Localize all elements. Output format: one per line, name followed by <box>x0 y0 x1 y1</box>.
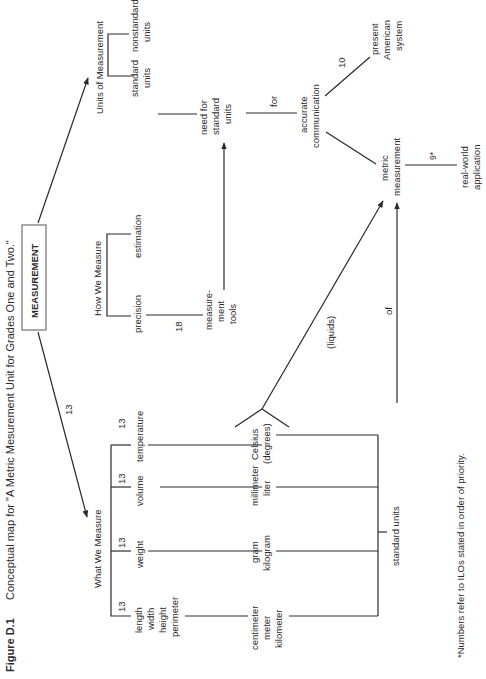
tools-l3: tools <box>227 304 238 324</box>
estimation-label: estimation <box>132 215 143 258</box>
present-l3: system <box>393 21 404 51</box>
application-l2: application <box>471 145 482 190</box>
priority-volume: 13 <box>116 473 127 484</box>
standard-units-l2: units <box>141 68 152 88</box>
need-l2: standard <box>210 98 221 135</box>
tools-l2: ment <box>215 301 226 322</box>
item-height: height <box>157 607 168 633</box>
root-what-link: 13 <box>63 404 74 415</box>
concept-map: Figure D.1 Conceptual map for "A Metric … <box>0 0 486 679</box>
figure-label: Figure D.1 <box>4 618 16 672</box>
item-length: length <box>133 607 144 633</box>
item-weight: weight <box>134 540 145 569</box>
accurate-to-present <box>325 57 370 96</box>
figure-title: Conceptual map for "A Metric Mesurement … <box>4 240 16 600</box>
units-title: Units of Measurement <box>94 21 105 114</box>
for-link: for <box>268 96 279 107</box>
figure-caption: Figure D.1 Conceptual map for "A Metric … <box>4 240 16 672</box>
unit-kilogram: kilogram <box>261 535 272 571</box>
priority-temperature: 13 <box>116 418 127 429</box>
metric-l1: metric <box>379 155 390 181</box>
unit-centimeter: centimeter <box>249 606 260 650</box>
liquids-arrow <box>262 201 383 409</box>
root-label: MEASUREMENT <box>29 243 40 318</box>
what-bracket-spine <box>111 445 131 616</box>
present-l1: present <box>369 23 380 55</box>
tools-l1: measure- <box>203 290 214 330</box>
liquids-label: (liquids) <box>325 316 336 349</box>
of-label: of <box>383 307 394 315</box>
standard-units-l1: standard <box>129 60 140 97</box>
unit-gram: gram <box>249 541 260 563</box>
priority-length: 13 <box>116 601 127 612</box>
item-perimeter: perimeter <box>169 597 180 637</box>
precision-link: 18 <box>173 321 184 332</box>
present-l2: American <box>381 20 392 60</box>
accurate-to-metric <box>326 132 376 164</box>
accurate-l2: communication <box>310 84 321 148</box>
priority-weight: 13 <box>116 537 127 548</box>
unit-degrees: (degrees) <box>261 423 272 464</box>
unit-liter: liter <box>261 481 272 496</box>
standard-units-label: standard units <box>390 506 401 566</box>
unit-kilometer: kilometer <box>273 609 284 648</box>
need-l3: units <box>222 104 233 124</box>
arrow-to-what <box>38 332 87 517</box>
item-volume: volume <box>134 475 145 506</box>
accurate-l1: accurate <box>298 97 309 133</box>
unit-meter: meter <box>261 616 272 640</box>
nonstandard-l2: units <box>141 22 152 42</box>
how-title: How We Measure <box>92 241 103 316</box>
how-bracket <box>107 234 131 316</box>
need-l1: need for <box>198 100 209 135</box>
application-l1: real-world <box>459 146 470 188</box>
arrow-to-units <box>38 78 88 223</box>
item-width: width <box>145 608 156 631</box>
unit-celsius: Celsius <box>249 429 260 460</box>
footnote: *Numbers refer to ILOs stated in order o… <box>455 453 466 658</box>
metric-l2: measurement <box>391 138 402 196</box>
nonstandard-l1: nonstandard <box>129 0 140 52</box>
precision-label: precision <box>132 295 143 333</box>
item-temperature: temperature <box>134 411 145 462</box>
present-link: 10 <box>336 57 347 68</box>
application-link: 9* <box>428 151 438 160</box>
unit-millimeter: millimeter <box>249 465 260 506</box>
what-title: What We Measure <box>92 510 103 589</box>
